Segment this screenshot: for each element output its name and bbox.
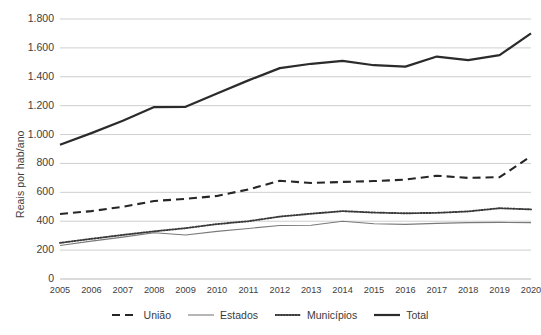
y-axis-tick-label: 1.200 [20, 100, 54, 110]
x-axis-tick-label: 2013 [301, 285, 321, 295]
x-axis-tick-label: 2008 [144, 285, 164, 295]
legend-item-municpios[interactable]: Municípios [275, 309, 357, 321]
y-axis-tick-label: 800 [20, 157, 54, 167]
x-axis-tick-label: 2009 [175, 285, 195, 295]
legend-label: União [144, 309, 171, 321]
legend-label: Municípios [307, 309, 357, 321]
x-axis-tick-label: 2005 [50, 285, 70, 295]
legend-swatch-dashed-icon [112, 310, 138, 320]
y-axis-tick-label: 1.400 [20, 71, 54, 81]
x-axis-tick-label: 2020 [521, 285, 541, 295]
legend-swatch-solid-thick-icon [374, 310, 400, 320]
legend-item-estados[interactable]: Estados [188, 309, 258, 321]
y-axis-tick-label: 1.600 [20, 42, 54, 52]
y-axis-tick-label: 600 [20, 186, 54, 196]
legend-item-total[interactable]: Total [374, 309, 428, 321]
legend-label: Total [406, 309, 428, 321]
legend-swatch-solid-thin-icon [188, 310, 214, 320]
x-axis-tick-label: 2018 [458, 285, 478, 295]
x-axis-tick-label: 2012 [270, 285, 290, 295]
x-axis-tick-label: 2011 [239, 285, 259, 295]
chart-legend: UniãoEstadosMunicípiosTotal [0, 309, 540, 321]
gridlines [60, 19, 531, 279]
x-axis-tick-label: 2017 [427, 285, 447, 295]
series-line-total [60, 33, 531, 144]
y-axis-tick-label: 1.800 [20, 13, 54, 23]
y-axis-tick-label: 1.000 [20, 129, 54, 139]
legend-swatch-dotted-icon [275, 310, 301, 320]
x-axis-tick-label: 2015 [364, 285, 384, 295]
x-axis-tick-label: 2007 [113, 285, 133, 295]
y-axis-tick-label: 0 [20, 273, 54, 283]
y-axis-tick-label: 400 [20, 215, 54, 225]
x-axis-tick-label: 2016 [395, 285, 415, 295]
x-axis-tick-label: 2014 [332, 285, 352, 295]
series-line-unio [60, 156, 531, 214]
x-axis-tick-label: 2006 [81, 285, 101, 295]
x-axis-tick-label: 2019 [489, 285, 509, 295]
legend-item-unio[interactable]: União [112, 309, 171, 321]
legend-label: Estados [220, 309, 258, 321]
y-axis-tick-label: 200 [20, 244, 54, 254]
x-axis-tick-label: 2010 [207, 285, 227, 295]
